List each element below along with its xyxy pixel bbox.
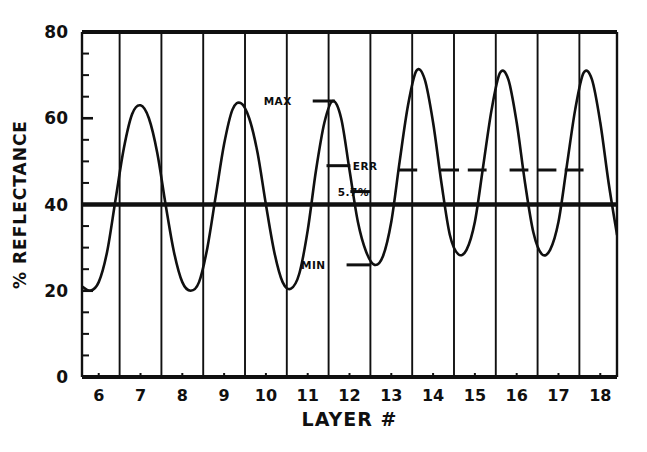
y-tick-label: 0 [56, 367, 68, 387]
x-tick-label: 16 [506, 386, 528, 405]
x-tick-label: 11 [297, 386, 319, 405]
x-axis-title: LAYER # [302, 408, 398, 430]
x-tick-label: 17 [547, 386, 569, 405]
x-tick-label: 8 [177, 386, 188, 405]
chart-figure: 020406080 6789101112131415161718 MAX ERR… [0, 0, 647, 452]
y-tick-label: 60 [44, 108, 68, 128]
x-tick-label: 6 [93, 386, 104, 405]
chart-background [0, 0, 647, 452]
x-tick-label: 7 [135, 386, 146, 405]
x-tick-label: 14 [422, 386, 444, 405]
reflectance-line-chart: 020406080 6789101112131415161718 MAX ERR… [0, 0, 647, 452]
y-tick-label: 40 [44, 195, 68, 215]
x-tick-label: 15 [464, 386, 486, 405]
annotation-label-percent: 5.7% [338, 186, 369, 198]
annotation-label-max: MAX [264, 95, 292, 107]
x-tick-label: 13 [380, 386, 402, 405]
x-tick-label: 12 [338, 386, 360, 405]
x-tick-label: 10 [255, 386, 277, 405]
y-tick-label: 20 [44, 281, 68, 301]
x-tick-label: 9 [219, 386, 230, 405]
y-axis-title: % REFLECTANCE [10, 120, 30, 289]
x-tick-label: 18 [589, 386, 611, 405]
annotation-label-err: ERR [353, 160, 378, 172]
annotation-label-min: MIN [301, 259, 326, 271]
y-tick-label: 80 [44, 22, 68, 42]
